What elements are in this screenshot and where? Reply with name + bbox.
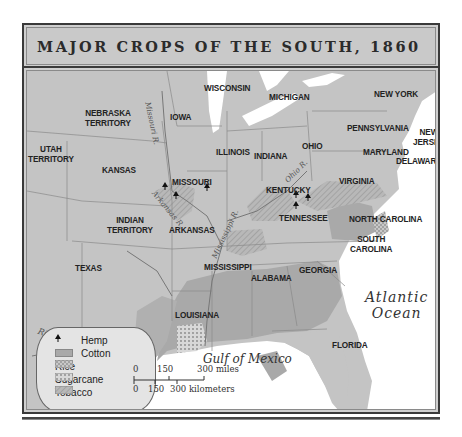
label-virginia: VIRGINIA [339, 177, 375, 187]
title-bar: MAJOR CROPS OF THE SOUTH, 1860 [26, 27, 436, 65]
tobacco-swatch [55, 386, 73, 394]
label-utah-territory: UTAHTERRITORY [28, 145, 74, 164]
label-kentucky: KENTUCKY [266, 186, 311, 196]
label-mississippi: MISSISSIPPI [204, 263, 252, 273]
scale-line [133, 376, 205, 384]
label-iowa: IOWA [170, 113, 191, 123]
label-atlantic-ocean: AtlanticOcean [365, 289, 428, 321]
label-illinois: ILLINOIS [216, 148, 250, 158]
hemp-marker-icon [293, 201, 299, 209]
scale-bar: 0 150 300 miles 0 150 300 kilometers [133, 364, 253, 410]
label-wisconsin: WISCONSIN [204, 84, 250, 94]
cotton-swatch [55, 349, 73, 357]
sugarcane-swatch [55, 373, 73, 381]
label-michigan: MICHIGAN [269, 93, 310, 103]
label-indiana: INDIANA [254, 152, 287, 162]
label-delaware: DELAWARE [396, 157, 436, 167]
label-pennsylvania: PENNSYLVANIA [347, 124, 409, 134]
label-south-carolina: SOUTHCAROLINA [350, 235, 392, 254]
map-title: MAJOR CROPS OF THE SOUTH, 1860 [37, 38, 421, 55]
legend-item-tobacco: Tobacco [55, 386, 92, 398]
label-texas: TEXAS [75, 264, 102, 274]
bottom-rule [22, 417, 440, 420]
label-new-york: NEW YORK [374, 90, 418, 100]
label-georgia: GEORGIA [299, 266, 337, 276]
rice-swatch [55, 360, 73, 368]
legend-item-rice: Rice [55, 360, 75, 372]
label-alabama: ALABAMA [251, 274, 292, 284]
legend-item-hemp: Hemp [55, 334, 108, 346]
label-louisiana: LOUISIANA [175, 311, 219, 321]
label-ohio: OHIO [302, 142, 323, 152]
label-tennessee: TENNESSEE [279, 214, 328, 224]
label-kansas: KANSAS [102, 166, 136, 176]
label-new-jersey: NEWJERSEY [413, 128, 436, 147]
map-area: WISCONSIN MICHIGAN NEW YORK NEBRASKATERR… [26, 70, 436, 410]
hemp-marker-icon [173, 191, 179, 199]
label-indian-territory: INDIANTERRITORY [107, 216, 153, 235]
label-missouri: MISSOURI [172, 178, 212, 188]
label-nebraska-territory: NEBRASKATERRITORY [85, 109, 131, 128]
hemp-marker-icon [162, 182, 168, 190]
legend-item-sugarcane: Sugarcane [55, 373, 103, 385]
label-arkansas: ARKANSAS [169, 226, 215, 236]
title-divider [24, 66, 438, 68]
label-florida: FLORIDA [332, 341, 368, 351]
legend-item-cotton: Cotton [55, 347, 110, 359]
map-frame: MAJOR CROPS OF THE SOUTH, 1860 [22, 23, 440, 414]
label-north-carolina: NORTH CAROLINA [349, 215, 422, 225]
